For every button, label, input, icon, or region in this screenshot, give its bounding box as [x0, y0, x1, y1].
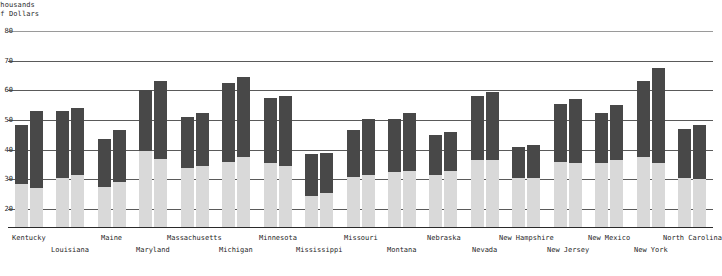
x-axis-tick-label: Nebraska	[427, 234, 461, 243]
bar-segment-dark	[693, 125, 706, 180]
bar-segment-dark	[403, 113, 416, 171]
bar-segment-light	[527, 178, 540, 227]
bar	[362, 31, 375, 227]
bar-group	[595, 31, 623, 227]
bar	[554, 31, 567, 227]
bar-segment-light	[610, 160, 623, 227]
x-axis-tick-label: Nevada	[472, 246, 497, 255]
bar-group	[98, 31, 126, 227]
bar	[527, 31, 540, 227]
x-axis-tick-label: Kentucky	[12, 234, 46, 243]
bar-group	[471, 31, 499, 227]
bar-segment-dark	[362, 119, 375, 175]
y-axis-tick-label: 50	[3, 116, 13, 124]
bar-group	[554, 31, 582, 227]
plot-area: 80706050403020	[8, 31, 713, 227]
bar	[610, 31, 623, 227]
bar-group	[637, 31, 665, 227]
bar-segment-dark	[222, 83, 235, 162]
x-axis-tick-label: Maine	[101, 234, 122, 243]
bar	[403, 31, 416, 227]
bar	[181, 31, 194, 227]
bar-segment-dark	[154, 81, 167, 158]
bar-segment-dark	[264, 98, 277, 163]
bar	[98, 31, 111, 227]
y-axis-title-line1: Thousands	[0, 1, 39, 10]
bar	[595, 31, 608, 227]
bar-segment-light	[320, 193, 333, 227]
bar-segment-light	[305, 196, 318, 227]
y-axis-tick-label: 20	[3, 205, 13, 213]
bar-segment-dark	[444, 132, 457, 171]
bar	[154, 31, 167, 227]
bar-segment-dark	[610, 105, 623, 160]
bar-segment-dark	[678, 129, 691, 178]
bar-segment-light	[196, 166, 209, 227]
bar	[652, 31, 665, 227]
bar	[512, 31, 525, 227]
bar-segment-dark	[486, 92, 499, 160]
bar	[320, 31, 333, 227]
bar-group	[347, 31, 375, 227]
bar-segment-light	[154, 159, 167, 227]
bar-segment-dark	[113, 130, 126, 182]
bar-segment-dark	[347, 130, 360, 176]
bar-group	[388, 31, 416, 227]
bar-group	[222, 31, 250, 227]
bar	[388, 31, 401, 227]
bar-group	[139, 31, 167, 227]
bar-segment-light	[15, 184, 28, 227]
bar-group	[512, 31, 540, 227]
x-axis-line	[8, 227, 713, 228]
bar-segment-dark	[554, 104, 567, 162]
bar	[693, 31, 706, 227]
x-axis-tick-label: Mississippi	[296, 246, 342, 255]
bar	[30, 31, 43, 227]
y-axis-tick-label: 80	[3, 27, 13, 35]
bar-segment-dark	[595, 113, 608, 163]
bar-segment-dark	[512, 147, 525, 178]
x-axis-tick-label: New Mexico	[588, 234, 630, 243]
bar	[279, 31, 292, 227]
bar-segment-light	[264, 163, 277, 227]
bar-segment-light	[403, 171, 416, 227]
bar-segment-dark	[652, 68, 665, 163]
bar	[444, 31, 457, 227]
bar-segment-dark	[569, 99, 582, 163]
bar	[429, 31, 442, 227]
x-axis-tick-label: Missouri	[344, 234, 378, 243]
x-axis-tick-label: Montana	[387, 246, 417, 255]
bar	[237, 31, 250, 227]
x-axis-tick-label: New York	[634, 246, 668, 255]
bar-segment-light	[471, 160, 484, 227]
x-axis-labels: KentuckyLouisianaMaineMarylandMassachuse…	[0, 234, 719, 276]
bar	[471, 31, 484, 227]
bar-segment-dark	[98, 139, 111, 187]
bar-segment-light	[362, 175, 375, 227]
bar	[71, 31, 84, 227]
x-axis-tick-label: New Hampshire	[499, 234, 554, 243]
x-axis-tick-label: Massachusetts	[167, 234, 222, 243]
bar-segment-light	[637, 157, 650, 227]
bar-segment-dark	[279, 96, 292, 166]
bar-segment-dark	[56, 111, 69, 178]
bar-segment-light	[486, 160, 499, 227]
bar-segment-dark	[527, 145, 540, 178]
bar-segment-dark	[237, 77, 250, 157]
bar-group	[181, 31, 209, 227]
x-axis-tick-label: Michigan	[219, 246, 253, 255]
y-axis-tick-label: 40	[3, 146, 13, 154]
bar-segment-light	[388, 172, 401, 227]
x-axis-tick-label: Minnesota	[259, 234, 297, 243]
bar-segment-dark	[305, 154, 318, 196]
bar	[305, 31, 318, 227]
bar-segment-light	[56, 178, 69, 227]
bar-segment-light	[347, 177, 360, 227]
bar-segment-light	[429, 175, 442, 227]
bar-segment-dark	[471, 96, 484, 160]
bar-segment-dark	[388, 119, 401, 172]
bar-segment-light	[444, 171, 457, 227]
bar-segment-dark	[181, 117, 194, 167]
bar-group	[678, 31, 706, 227]
